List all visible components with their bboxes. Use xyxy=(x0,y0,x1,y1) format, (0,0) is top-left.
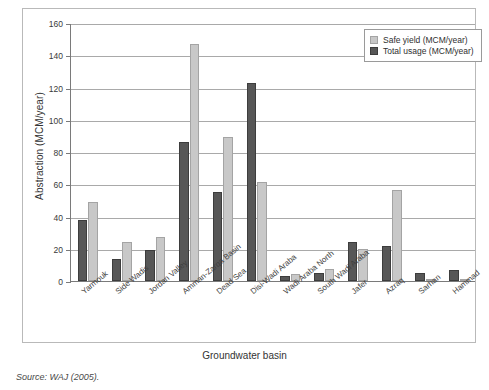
chart-frame: Abstraction (MCM/year) 02040608010012014… xyxy=(22,8,476,343)
y-axis-tick xyxy=(66,282,71,283)
bar-group xyxy=(172,24,206,281)
bar-group xyxy=(105,24,139,281)
y-axis-tick-label: 40 xyxy=(54,213,63,222)
legend-swatch-safe xyxy=(370,36,378,44)
bar-group xyxy=(240,24,274,281)
y-axis-tick-label: 160 xyxy=(49,20,63,29)
bar-safe-yield xyxy=(257,182,267,281)
legend-item: Safe yield (MCM/year) xyxy=(370,35,474,45)
chart-legend: Safe yield (MCM/year)Total usage (MCM/ye… xyxy=(364,29,482,62)
bar-safe-yield xyxy=(190,44,200,281)
legend-label: Safe yield (MCM/year) xyxy=(383,35,468,45)
bar-group xyxy=(442,24,476,281)
y-axis-title: Abstraction (MCM/year) xyxy=(34,92,45,200)
y-axis-tick-label: 0 xyxy=(58,278,63,287)
y-axis-tick-label: 60 xyxy=(54,181,63,190)
bar-total-usage xyxy=(112,259,122,281)
bar-total-usage xyxy=(247,83,257,281)
bar-group xyxy=(409,24,443,281)
bar-total-usage xyxy=(415,273,425,281)
source-note: Source: WAJ (2005). xyxy=(16,372,99,382)
y-axis-tick-label: 100 xyxy=(49,117,63,126)
legend-swatch-total xyxy=(370,47,378,55)
bar-total-usage xyxy=(382,246,392,281)
bar-total-usage xyxy=(449,270,459,281)
bar-series-layer xyxy=(71,24,475,281)
bar-group xyxy=(139,24,173,281)
bar-total-usage xyxy=(78,220,88,281)
bar-group xyxy=(71,24,105,281)
y-axis-tick-label: 140 xyxy=(49,52,63,61)
bar-safe-yield xyxy=(88,202,98,281)
y-axis-tick-label: 120 xyxy=(49,84,63,93)
bar-group xyxy=(375,24,409,281)
y-axis-tick-label: 20 xyxy=(54,246,63,255)
bar-total-usage xyxy=(314,273,324,281)
legend-label: Total usage (MCM/year) xyxy=(383,46,474,56)
bar-safe-yield xyxy=(392,190,402,281)
plot-area: 020406080100120140160 xyxy=(70,24,475,282)
y-axis-tick-label: 80 xyxy=(54,149,63,158)
bar-group xyxy=(341,24,375,281)
legend-item: Total usage (MCM/year) xyxy=(370,46,474,56)
x-axis-title: Groundwater basin xyxy=(0,350,489,361)
figure: Abstraction (MCM/year) 02040608010012014… xyxy=(0,0,489,390)
bar-group xyxy=(307,24,341,281)
bar-group xyxy=(274,24,308,281)
bar-total-usage xyxy=(280,276,290,281)
